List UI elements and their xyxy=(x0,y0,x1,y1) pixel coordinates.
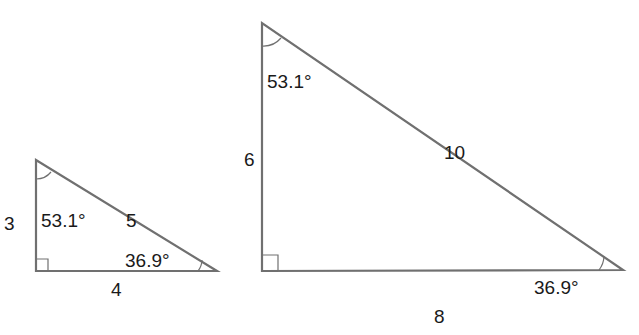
small-side-horizontal-label: 4 xyxy=(111,279,122,300)
large-side-vertical-label: 6 xyxy=(244,149,255,170)
small-right-angle-marker xyxy=(36,259,48,271)
small-top-angle-label: 53.1° xyxy=(41,210,86,231)
large-right-angle-arc xyxy=(599,256,604,270)
large-right-angle-label: 36.9° xyxy=(534,277,579,298)
small-top-angle-arc xyxy=(36,172,51,179)
large-side-hypotenuse-label: 10 xyxy=(444,142,465,163)
small-right-angle-label: 36.9° xyxy=(125,250,170,271)
large-side-horizontal-label: 8 xyxy=(434,306,445,327)
small-triangle: 3 4 5 53.1° 36.9° xyxy=(4,160,217,300)
large-triangle: 6 8 10 53.1° 36.9° xyxy=(244,23,623,327)
large-triangle-outline xyxy=(262,23,623,271)
similar-triangles-diagram: 3 4 5 53.1° 36.9° 6 8 10 53.1° 36.9° xyxy=(0,0,639,335)
large-top-angle-arc xyxy=(262,38,281,46)
large-right-angle-marker xyxy=(262,255,278,271)
large-top-angle-label: 53.1° xyxy=(267,71,312,92)
small-side-vertical-label: 3 xyxy=(4,213,15,234)
small-side-hypotenuse-label: 5 xyxy=(126,210,137,231)
